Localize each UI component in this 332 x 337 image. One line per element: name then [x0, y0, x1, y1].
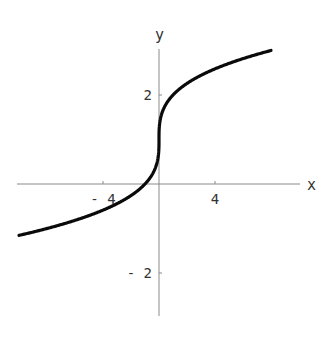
x-axis-label: x — [307, 176, 316, 194]
x-tick-label: 4 — [211, 191, 219, 207]
plot-area: - 44 2- 2 x y — [0, 0, 332, 337]
y-tick-label: - 2 — [127, 265, 152, 281]
function-curve — [19, 51, 271, 236]
x-ticks: - 44 — [90, 181, 219, 207]
y-tick-label: 2 — [144, 87, 152, 103]
y-axis-label: y — [155, 26, 164, 44]
